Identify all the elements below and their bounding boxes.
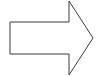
right-arrow-shape[interactable] [10,1,93,75]
diagram-canvas [0,0,97,76]
arrow-diagram-svg [0,0,97,76]
